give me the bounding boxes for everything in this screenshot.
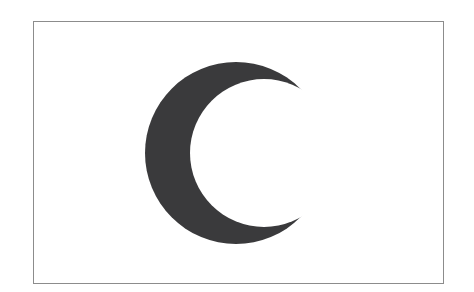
flag-figure (0, 0, 474, 292)
crescent-icon (145, 62, 327, 244)
